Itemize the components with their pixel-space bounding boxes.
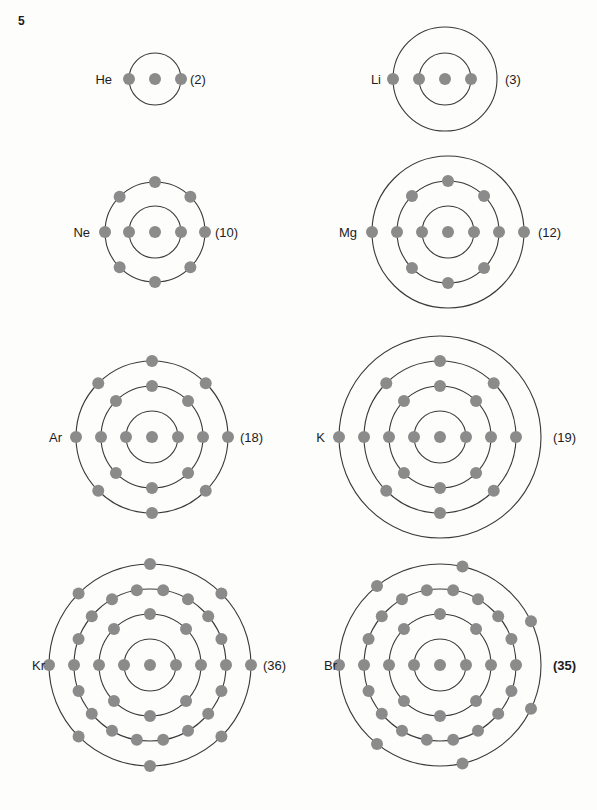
electron-dot — [398, 695, 410, 707]
electron-dot — [406, 262, 418, 274]
electron-dot — [434, 380, 446, 392]
electron-dot — [184, 191, 196, 203]
nucleus-dot — [149, 73, 161, 85]
electron-dot — [408, 659, 420, 671]
electron-dot — [460, 431, 472, 443]
electron-dot — [144, 558, 156, 570]
electron-dot — [86, 708, 98, 720]
atom-diagram-li: Li(3) — [371, 27, 521, 131]
electron-dot — [215, 588, 227, 600]
electron-dot — [525, 703, 537, 715]
electron-dot — [175, 73, 187, 85]
atom-diagram-mg: Mg(12) — [339, 156, 561, 308]
electron-dot — [485, 659, 497, 671]
electron-dot — [442, 277, 454, 289]
electron-dot — [383, 431, 395, 443]
electron-dot — [70, 431, 82, 443]
electron-dot — [472, 593, 484, 605]
atom-diagram-ar: Ar(18) — [49, 355, 263, 519]
electron-dot — [131, 734, 143, 746]
electron-dot — [371, 580, 383, 592]
atom-symbol-label: Ne — [73, 225, 90, 240]
electron-dot — [465, 73, 477, 85]
electron-dot — [182, 725, 194, 737]
atom-symbol-label: Mg — [339, 225, 357, 240]
electron-dot — [470, 467, 482, 479]
electron-dot — [197, 431, 209, 443]
electron-dot — [398, 623, 410, 635]
electron-dot — [73, 633, 85, 645]
electron-dot — [99, 226, 111, 238]
electron-dot — [434, 482, 446, 494]
electron-dot — [387, 73, 399, 85]
atom-diagram-kr: Kr(36) — [32, 558, 286, 772]
electron-dot — [434, 608, 446, 620]
electron-dot — [408, 431, 420, 443]
atom-diagram-ne: Ne(10) — [73, 176, 238, 288]
electron-dot — [123, 73, 135, 85]
electron-dot — [470, 395, 482, 407]
electron-dot — [215, 685, 227, 697]
atomic-number-label: (35) — [553, 658, 576, 673]
electron-dot — [493, 226, 505, 238]
electron-dot — [371, 738, 383, 750]
electron-dot — [86, 610, 98, 622]
electron-dot — [182, 395, 194, 407]
electron-dot — [358, 659, 370, 671]
electron-dot — [68, 659, 80, 671]
electron-dot — [492, 610, 504, 622]
electron-dot — [175, 226, 187, 238]
electron-dot — [93, 659, 105, 671]
electron-dot — [434, 710, 446, 722]
electron-dot — [220, 659, 232, 671]
electron-dot — [510, 431, 522, 443]
nucleus-dot — [149, 226, 161, 238]
electron-dot — [110, 467, 122, 479]
electron-dot — [202, 708, 214, 720]
electron-dot — [149, 176, 161, 188]
electron-dot — [510, 659, 522, 671]
electron-dot — [333, 431, 345, 443]
atom-symbol-label: Kr — [32, 658, 46, 673]
electron-dot — [123, 226, 135, 238]
atomic-number-label: (10) — [215, 225, 238, 240]
atomic-number-label: (36) — [263, 658, 286, 673]
nucleus-dot — [144, 659, 156, 671]
electron-dot — [406, 190, 418, 202]
electron-dot — [376, 610, 388, 622]
electron-dot — [131, 584, 143, 596]
electron-dot — [92, 377, 104, 389]
electron-dot — [182, 467, 194, 479]
atomic-number-label: (18) — [240, 430, 263, 445]
atom-diagram-k: K(19) — [316, 336, 576, 538]
electron-dot — [200, 485, 212, 497]
electron-dot — [149, 276, 161, 288]
atom-symbol-label: Br — [324, 658, 338, 673]
electron-dot — [398, 395, 410, 407]
electron-dot — [488, 485, 500, 497]
electron-dot — [396, 593, 408, 605]
electron-dot — [146, 380, 158, 392]
electron-dot — [202, 610, 214, 622]
electron-dot — [222, 431, 234, 443]
atom-symbol-label: K — [316, 430, 325, 445]
electron-dot — [73, 588, 85, 600]
electron-dot — [485, 431, 497, 443]
electron-dot — [172, 431, 184, 443]
electron-dot — [146, 355, 158, 367]
electron-dot — [146, 507, 158, 519]
electron-dot — [363, 633, 375, 645]
electron-dot — [108, 695, 120, 707]
electron-dot — [144, 608, 156, 620]
electron-dot — [215, 730, 227, 742]
electron-dot — [144, 760, 156, 772]
electron-dot — [73, 685, 85, 697]
electron-dot — [492, 708, 504, 720]
electron-dot — [470, 695, 482, 707]
atom-symbol-label: Li — [371, 72, 381, 87]
electron-dot — [363, 685, 375, 697]
electron-dot — [358, 431, 370, 443]
electron-dot — [472, 725, 484, 737]
electron-dot — [525, 615, 537, 627]
electron-dot — [478, 262, 490, 274]
